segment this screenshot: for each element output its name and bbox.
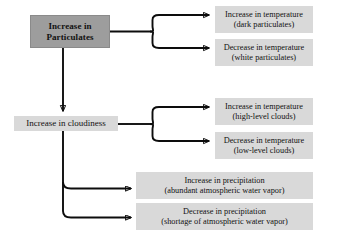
node-decrease-temperature-white-particulates: Decrease in temperature (white particula…	[215, 39, 313, 66]
leaf-line-1: Increase in precipitation	[184, 176, 264, 185]
connector-fork2-lower	[150, 124, 209, 141]
leaf-line-1: Decrease in temperature	[224, 136, 305, 145]
leaf-line-2: (shortage of atmospheric water vapor)	[161, 217, 288, 226]
leaf-line-2: (abundant atmospheric water vapor)	[164, 186, 284, 195]
flowchart-diagram: Increase in Particulates Increase in clo…	[0, 0, 338, 238]
leaf-line-2: (dark particulates)	[234, 20, 295, 29]
leaf-line-1: Decrease in temperature	[224, 43, 305, 52]
node-increase-precipitation: Increase in precipitation (abundant atmo…	[136, 172, 313, 199]
node-increase-in-particulates: Increase in Particulates	[30, 15, 110, 48]
source-line-1: Increase in	[48, 21, 91, 31]
source-line-2: Particulates	[46, 32, 93, 42]
leaf-line-2: (white particulates)	[232, 53, 296, 62]
connector-fork1-upper	[150, 15, 209, 32]
leaf-line-1: Decrease in precipitation	[183, 207, 266, 216]
connector-precipitation-lower	[63, 182, 131, 218]
cloudiness-label: Increase in cloudiness	[26, 118, 105, 128]
leaf-line-2: (high-level clouds)	[233, 112, 296, 121]
leaf-line-1: Increase in temperature	[225, 10, 303, 19]
leaf-line-1: Increase in temperature	[225, 102, 303, 111]
connector-fork2-upper	[150, 107, 209, 124]
node-increase-in-cloudiness: Increase in cloudiness	[14, 116, 118, 131]
node-increase-temperature-dark-particulates: Increase in temperature (dark particulat…	[215, 6, 313, 33]
node-decrease-temperature-low-level-clouds: Decrease in temperature (low-level cloud…	[215, 132, 313, 159]
node-decrease-precipitation: Decrease in precipitation (shortage of a…	[136, 203, 313, 230]
leaf-line-2: (low-level clouds)	[234, 146, 295, 155]
connector-precipitation-upper	[63, 131, 131, 189]
connector-fork1-lower	[150, 32, 209, 49]
node-increase-temperature-high-level-clouds: Increase in temperature (high-level clou…	[215, 98, 313, 125]
